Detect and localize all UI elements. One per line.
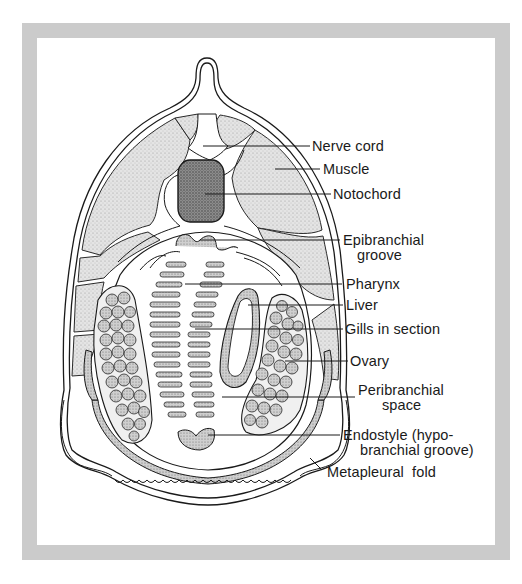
label-notochord: Notochord (333, 187, 401, 202)
label-text: space (358, 398, 444, 413)
label-text: Pharynx (346, 276, 400, 292)
label-peribranchial-space: Peribranchial space (358, 383, 444, 413)
label-text: Liver (346, 297, 378, 313)
label-text: Muscle (323, 161, 370, 177)
label-text: Notochord (333, 186, 401, 202)
label-muscle: Muscle (323, 162, 370, 177)
label-text: Ovary (350, 353, 389, 369)
label-gills-in-section: Gills in section (345, 322, 440, 337)
amphioxus-cross-section-drawing (0, 0, 522, 584)
label-text: Endostyle (hypo- (343, 428, 474, 443)
label-pharynx: Pharynx (346, 277, 400, 292)
label-ovary: Ovary (350, 354, 389, 369)
label-text: Metapleural fold (327, 464, 436, 480)
label-text: groove (343, 248, 424, 263)
label-nerve-cord: Nerve cord (312, 139, 384, 154)
label-endostyle: Endostyle (hypo- branchial groove) (343, 428, 474, 458)
label-text: Gills in section (345, 321, 440, 337)
notochord-shape (178, 160, 224, 222)
lateral-band-right (318, 350, 332, 400)
label-text: Nerve cord (312, 138, 384, 154)
label-metapleural-fold: Metapleural fold (327, 465, 436, 480)
label-liver: Liver (346, 298, 378, 313)
label-text: Peribranchial (358, 383, 444, 398)
label-text: Epibranchial (343, 233, 424, 248)
label-epibranchial-groove: Epibranchial groove (343, 233, 424, 263)
label-text: branchial groove) (343, 443, 474, 458)
